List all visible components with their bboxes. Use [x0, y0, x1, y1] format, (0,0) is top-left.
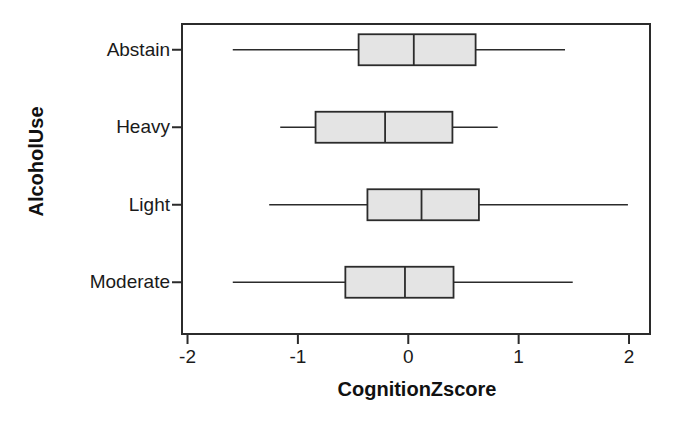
y-tick-label-light: Light: [20, 194, 170, 216]
box-series: [233, 34, 628, 298]
x-tick-label-minus2: -2: [168, 346, 208, 368]
x-tick-label-zero: 0: [388, 346, 428, 368]
x-tick-label-two: 2: [609, 346, 649, 368]
x-axis-title: CognitionZscore: [182, 378, 652, 401]
y-tick-label-group: Abstain Heavy Light Moderate: [10, 0, 170, 421]
boxplot-light: [269, 189, 628, 220]
box-iqr: [345, 267, 453, 298]
x-tick-label-minus1: -1: [278, 346, 318, 368]
y-tick-label-heavy: Heavy: [20, 116, 170, 138]
box-iqr: [316, 112, 453, 143]
box-iqr: [359, 34, 476, 65]
y-tick-label-moderate: Moderate: [20, 271, 170, 293]
boxplot-heavy: [280, 112, 497, 143]
box-iqr: [367, 189, 478, 220]
boxplot-moderate: [233, 267, 573, 298]
boxplot-abstain: [233, 34, 565, 65]
x-tick-label-one: 1: [499, 346, 539, 368]
boxplot-figure: AlcoholUse Abstain Heavy Light Moderate …: [0, 0, 689, 421]
y-tick-label-abstain: Abstain: [20, 39, 170, 61]
